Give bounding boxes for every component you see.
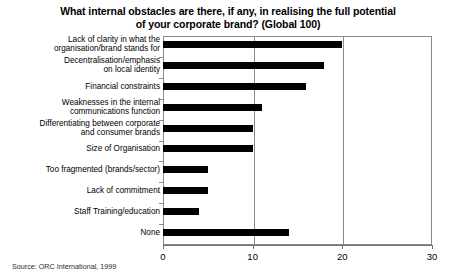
- x-axis-tick: [163, 245, 164, 249]
- y-axis-label: Financial constraints: [0, 82, 160, 91]
- y-axis-label-line: None: [0, 228, 160, 237]
- x-axis-tick: [342, 245, 343, 249]
- y-axis-tick: [159, 120, 163, 121]
- y-axis-label-line: Weaknesses in the internal: [0, 98, 160, 107]
- source-note: Source: ORC International, 1999: [12, 262, 116, 271]
- x-axis-tick: [253, 245, 254, 249]
- y-axis-label-line: Too fragmented (brands/sector): [0, 165, 160, 174]
- y-axis-label-line: Lack of commitment: [0, 186, 160, 195]
- x-axis-tick: [432, 245, 433, 249]
- chart-figure: What internal obstacles are there, if an…: [0, 0, 455, 277]
- y-axis-label: Differentiating between corporateand con…: [0, 119, 160, 138]
- y-axis-label-line: and consumer brands: [0, 128, 160, 137]
- y-axis-label: Too fragmented (brands/sector): [0, 165, 160, 174]
- y-axis-tick: [159, 99, 163, 100]
- bar: [163, 208, 199, 215]
- y-axis-label-line: communications function: [0, 107, 160, 116]
- bar: [163, 229, 289, 236]
- y-axis-label-line: Lack of clarity in what the: [0, 35, 160, 44]
- x-axis-line: [163, 245, 433, 246]
- x-axis-tick-label: 10: [233, 251, 273, 262]
- y-axis-tick: [159, 57, 163, 58]
- y-axis-label-line: on local identity: [0, 65, 160, 74]
- chart-title-line-1: What internal obstacles are there, if an…: [28, 5, 428, 18]
- y-axis-label: Decentralisation/emphasison local identi…: [0, 56, 160, 75]
- y-axis-tick: [159, 141, 163, 142]
- y-axis-label: Lack of commitment: [0, 186, 160, 195]
- bar: [163, 104, 262, 111]
- chart-title-line-2: of your corporate brand? (Global 100): [28, 18, 428, 31]
- y-axis-tick: [159, 161, 163, 162]
- bar: [163, 41, 342, 48]
- y-axis-label: Size of Organisation: [0, 144, 160, 153]
- y-axis-label: None: [0, 228, 160, 237]
- chart-title: What internal obstacles are there, if an…: [28, 5, 428, 31]
- y-axis-label-line: organisation/brand stands for: [0, 44, 160, 53]
- y-axis-label-line: Size of Organisation: [0, 144, 160, 153]
- y-axis-label: Staff Training/education: [0, 207, 160, 216]
- bar: [163, 187, 208, 194]
- y-axis-label-line: Decentralisation/emphasis: [0, 56, 160, 65]
- y-axis-label-line: Differentiating between corporate: [0, 119, 160, 128]
- y-axis-label-line: Staff Training/education: [0, 207, 160, 216]
- bar: [163, 125, 253, 132]
- y-axis-labels: Lack of clarity in what theorganisation/…: [0, 36, 160, 245]
- bar: [163, 166, 208, 173]
- x-axis-tick-label: 30: [412, 251, 452, 262]
- y-axis-tick: [159, 182, 163, 183]
- x-axis-tick-label: 20: [322, 251, 362, 262]
- bars-layer: [163, 36, 432, 245]
- y-axis-label: Lack of clarity in what theorganisation/…: [0, 35, 160, 54]
- y-axis-label: Weaknesses in the internalcommunications…: [0, 98, 160, 117]
- y-axis-tick: [159, 203, 163, 204]
- y-axis-label-line: Financial constraints: [0, 82, 160, 91]
- bar: [163, 83, 306, 90]
- y-axis-tick: [159, 78, 163, 79]
- bar: [163, 62, 324, 69]
- x-axis-tick-label: 0: [143, 251, 183, 262]
- y-axis-tick: [159, 224, 163, 225]
- bar: [163, 145, 253, 152]
